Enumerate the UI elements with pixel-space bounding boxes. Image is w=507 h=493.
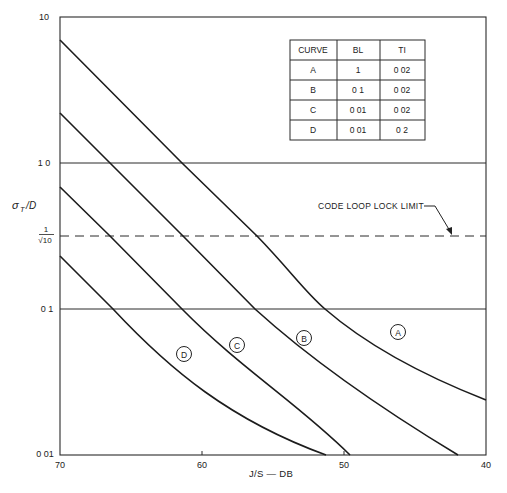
chart: A B C D 10 1 0 0 1 0 01 σ T /D 1 √10 70 … — [0, 0, 507, 493]
table-cell: 0 02 — [394, 105, 411, 115]
svg-text:1: 1 — [44, 225, 49, 234]
table-header-curve: CURVE — [298, 45, 328, 55]
curve-d — [60, 256, 326, 455]
curve-label-c: C — [230, 338, 245, 353]
arrow-icon — [424, 206, 452, 235]
table-cell: 0 2 — [396, 125, 408, 135]
x-tick-60: 60 — [197, 460, 207, 470]
curve-label-a: A — [391, 325, 406, 340]
x-tick-50: 50 — [339, 460, 349, 470]
curve-label-b: B — [297, 331, 312, 346]
svg-text:/D: /D — [25, 200, 37, 211]
curve-label-d: D — [177, 347, 192, 362]
table-cell: 0 01 — [350, 105, 367, 115]
svg-text:√10: √10 — [38, 236, 52, 245]
table-cell: B — [310, 85, 316, 95]
x-tick-40: 40 — [481, 460, 491, 470]
code-loop-lock-limit-label: CODE LOOP LOCK LIMIT — [318, 201, 424, 211]
svg-text:D: D — [181, 350, 187, 360]
y-tick-0-1: 0 1 — [41, 304, 54, 314]
y-tick-0-01: 0 01 — [36, 449, 54, 459]
svg-text:B: B — [301, 334, 307, 344]
svg-text:A: A — [395, 328, 401, 338]
x-axis-label: J/S — DB — [249, 468, 293, 479]
table-cell: C — [310, 105, 316, 115]
table-cell: 1 — [356, 65, 361, 75]
curve-c — [60, 187, 350, 455]
table-cell: 0 01 — [350, 125, 367, 135]
table-cell: 0 1 — [352, 85, 364, 95]
table-header-bl: BL — [353, 45, 364, 55]
y-tick-1: 1 0 — [38, 158, 51, 168]
y-tick-10: 10 — [39, 12, 49, 22]
table-cell: A — [310, 65, 316, 75]
svg-text:C: C — [234, 341, 240, 351]
table-header-ti: TI — [398, 45, 406, 55]
x-tick-70: 70 — [55, 460, 65, 470]
svg-text:σ: σ — [12, 199, 19, 211]
table-cell: 0 02 — [394, 85, 411, 95]
curve-b — [60, 113, 458, 455]
y-axis-label: σ T /D — [12, 199, 37, 214]
reference-value-label: 1 √10 — [38, 225, 54, 245]
table-cell: D — [310, 125, 316, 135]
table-cell: 0 02 — [394, 65, 411, 75]
legend-table: CURVE BL TI A 1 0 02 B 0 1 0 02 C 0 01 0… — [290, 40, 425, 140]
